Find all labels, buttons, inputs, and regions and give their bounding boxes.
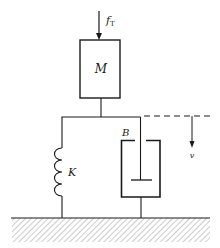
mass-spring-damper-diagram: fT M K B v: [0, 0, 220, 248]
arrowhead-icon: [96, 33, 102, 40]
force-subscript: T: [110, 20, 115, 28]
force-arrow: [96, 11, 102, 40]
ground-hatching: [12, 218, 210, 242]
velocity-reference: [144, 116, 210, 148]
velocity-label: v: [190, 151, 195, 160]
spring-label: K: [67, 166, 77, 179]
force-label: fT: [105, 14, 115, 28]
mass-label: M: [94, 62, 108, 76]
damper-label: B: [121, 127, 129, 138]
spring: [55, 117, 63, 218]
arrowhead-icon: [190, 141, 195, 148]
